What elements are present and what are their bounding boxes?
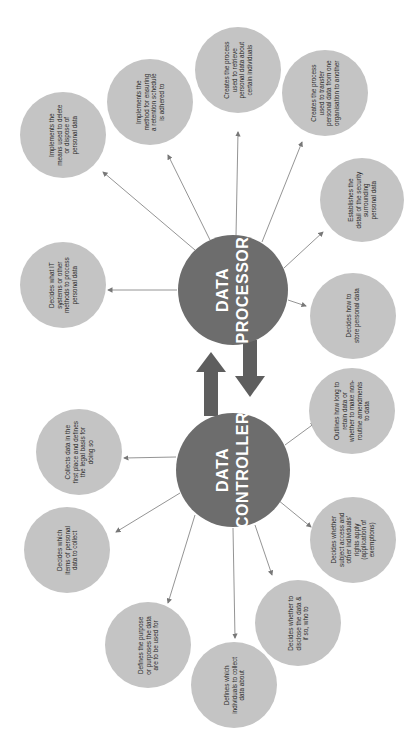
processor-task-it-systems: Decides what IT systems or other methods… [20,242,106,328]
connector-line [236,132,238,236]
connector-line [124,457,176,458]
processor-task-security-detail: Establishes the detail of the security s… [320,158,404,242]
processor-task-retrieve-process: Creates the process used to retrieve per… [195,27,281,113]
connector-line [262,142,302,242]
connector-line [255,525,272,575]
connector-line [116,493,180,532]
processor-task-delete-data: Implements the means used to delete or d… [20,92,106,178]
controller-task-purpose: Defines the purpose or purposes the data… [105,602,191,688]
data-controller-processor-diagram: DATA PROCESSOR DATA CONTROLLER Implement… [0,0,411,749]
controller-task-subject-rights: Decides whether subject access and other… [310,497,396,583]
data-processor-node: DATA PROCESSOR [178,235,288,345]
connector-line [103,172,195,250]
arrow-processor-to-controller [235,340,265,397]
controller-task-disclosure: Decides whether to disclose the data & i… [255,580,341,666]
processor-task-transfer-process: Creates the process used to transfer per… [282,50,368,136]
controller-task-collection: Collects data in the first place and def… [36,409,122,495]
connector-line [168,155,210,240]
connector-line [285,423,315,445]
processor-task-retention-schedule: Implements the method for ensuring a ret… [107,59,193,145]
controller-task-data-items: Decides which items of personal data to … [24,507,110,593]
connector-line [233,528,235,638]
processor-label-line2: PROCESSOR [233,237,253,344]
controller-label-line1: DATA [213,412,233,528]
processor-task-storage: Decides how to store personal data [310,273,396,359]
controller-task-individuals: Defines which individuals to collect dat… [191,642,277,728]
arrow-controller-to-processor [196,352,226,416]
controller-label-line2: CONTROLLER [233,412,253,528]
connector-line [288,300,306,306]
controller-task-retention-period: Outlines how long to retain data or whet… [309,368,395,454]
connector-line [168,515,195,603]
processor-label-line1: DATA [213,237,233,344]
data-controller-node: DATA CONTROLLER [176,413,290,527]
connector-line [284,232,323,268]
connector-line [278,500,311,527]
